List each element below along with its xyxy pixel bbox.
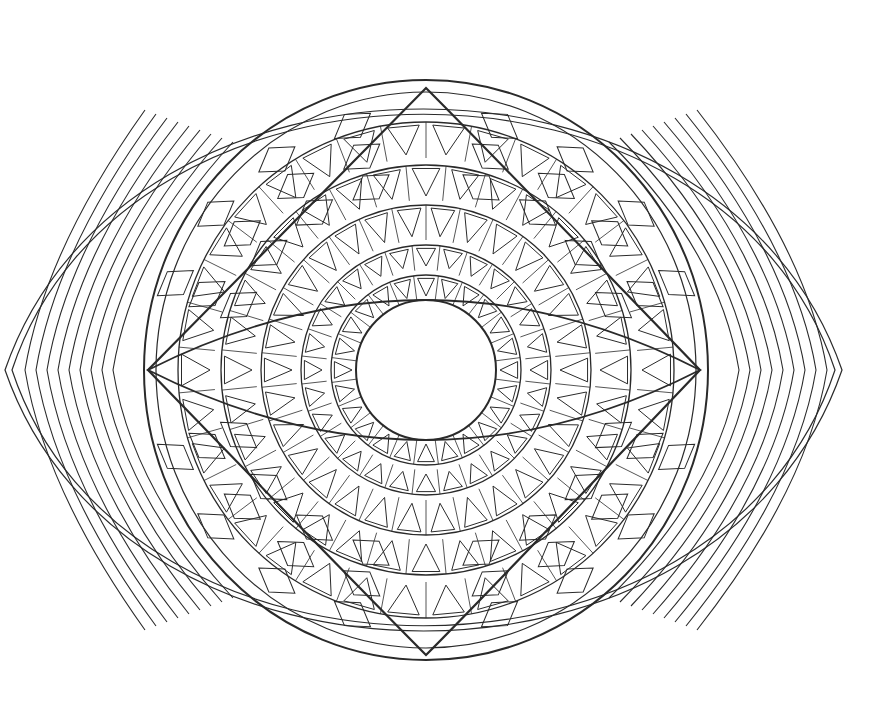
ring-divider xyxy=(479,219,493,251)
triangle-cell xyxy=(305,388,324,407)
triangle-cell xyxy=(442,279,458,298)
ring-divider xyxy=(368,295,383,315)
triangle-cell xyxy=(465,213,488,243)
triangle-cell xyxy=(452,170,479,200)
triangle-cell xyxy=(343,451,361,471)
triangle-cell xyxy=(556,542,586,574)
triangle-cell xyxy=(490,179,516,210)
ring-divider xyxy=(435,439,438,464)
triangle-cell xyxy=(397,503,421,532)
ring-divider xyxy=(414,276,417,301)
triangle-cell xyxy=(334,362,352,379)
triangle-cell xyxy=(412,544,440,572)
triangle-cell xyxy=(586,194,618,225)
diamond-cell xyxy=(584,209,636,257)
triangle-cell xyxy=(343,269,361,289)
ring-divider xyxy=(503,568,516,602)
diamond-cell xyxy=(216,483,268,531)
triangle-cell xyxy=(390,249,409,268)
outer-eye-band xyxy=(5,109,842,631)
ring-divider xyxy=(366,533,376,566)
triangle-cell xyxy=(507,287,527,305)
triangle-cell xyxy=(418,278,435,296)
ring-divider xyxy=(525,381,550,384)
ring-divider xyxy=(332,379,357,382)
ring-divider xyxy=(497,441,515,459)
right-chevron-line xyxy=(697,110,827,630)
triangle-cell xyxy=(303,515,330,546)
ring-divider xyxy=(453,209,460,243)
ring-divider xyxy=(269,319,302,330)
triangle-cell xyxy=(394,279,410,298)
triangle-cell xyxy=(416,248,435,266)
ring-divider xyxy=(523,260,549,283)
left-chevron-line xyxy=(58,122,178,618)
ring-divider xyxy=(453,497,460,531)
triangle-cell xyxy=(394,441,410,460)
ring-divider xyxy=(222,387,257,390)
ring-divider xyxy=(491,397,514,407)
triangle-cell xyxy=(288,449,317,475)
ring-divider xyxy=(406,539,409,574)
triangle-cell xyxy=(597,396,627,423)
ring-divider xyxy=(539,435,569,453)
triangle-cell xyxy=(516,242,543,270)
triangle-cell xyxy=(388,125,420,155)
ring-divider xyxy=(595,387,630,390)
ring-divider xyxy=(637,347,673,350)
ring-divider xyxy=(414,439,417,464)
triangle-cell xyxy=(431,208,455,237)
ring-divider xyxy=(475,174,485,207)
ring-divider xyxy=(523,457,549,480)
ring-divider xyxy=(222,350,257,353)
ring-divider xyxy=(366,174,376,207)
triangle-cell xyxy=(303,144,331,177)
ring-divider xyxy=(332,358,357,361)
triangle-cell xyxy=(549,218,578,247)
diamond-cell xyxy=(216,209,268,257)
ring-divider xyxy=(359,219,373,251)
inner-circle xyxy=(356,300,496,440)
triangle-cell xyxy=(500,362,518,379)
triangle-cell xyxy=(491,451,509,471)
ring-divider xyxy=(550,319,583,330)
ring-divider xyxy=(329,189,345,220)
triangle-cell xyxy=(264,358,292,382)
ring-divider xyxy=(359,264,372,285)
triangle-cell xyxy=(183,310,214,341)
ring-divider xyxy=(482,312,502,327)
ring-divider xyxy=(283,288,313,306)
ring-divider xyxy=(336,568,349,602)
ring-divider xyxy=(269,410,302,421)
ring-divider xyxy=(506,520,522,551)
triangle-cell xyxy=(444,249,463,268)
triangle-cell xyxy=(642,354,670,386)
triangle-cell xyxy=(490,531,516,562)
left-chevron-line xyxy=(113,142,233,598)
ring-divider xyxy=(465,578,472,613)
triangle-cell xyxy=(335,386,354,402)
triangle-cell xyxy=(390,471,409,490)
ring-divider xyxy=(338,441,356,459)
middle-circle xyxy=(144,80,708,660)
triangle-cell xyxy=(235,194,267,225)
ring-divider xyxy=(482,413,502,428)
mandala-artwork xyxy=(0,0,873,727)
triangle-cell xyxy=(336,531,362,562)
triangle-cell xyxy=(534,449,563,475)
ring-divider xyxy=(437,469,440,494)
ring-divider xyxy=(368,426,383,446)
triangle-ring-border xyxy=(261,205,591,535)
ring-divider xyxy=(630,428,665,438)
ring-divider xyxy=(479,489,493,521)
triangle-cell xyxy=(265,392,294,415)
ring-divider xyxy=(437,246,440,271)
ring-divider xyxy=(392,497,399,531)
triangle-cell xyxy=(235,516,267,547)
ring-divider xyxy=(502,475,523,503)
triangle-cell xyxy=(527,388,546,407)
ring-divider xyxy=(479,264,492,285)
ring-divider xyxy=(245,273,276,289)
triangle-cell xyxy=(444,471,463,490)
ring-divider xyxy=(336,139,349,173)
